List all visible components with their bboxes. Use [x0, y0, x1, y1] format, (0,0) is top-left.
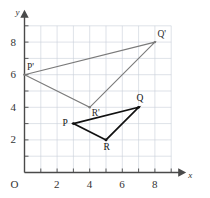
y-tick-label: 6	[11, 69, 17, 80]
coordinate-plane-figure: x y O 24682468 P'Q'R'PQR	[0, 0, 210, 198]
origin-label: O	[11, 179, 19, 190]
y-tick-label: 8	[11, 37, 17, 48]
y-tick-label: 4	[11, 102, 17, 113]
x-tick-label: 8	[152, 179, 158, 190]
vertex-label-q-prime: Q'	[157, 30, 166, 40]
vertex-label-p: P	[62, 119, 67, 129]
vertex-label-q: Q	[137, 94, 144, 104]
x-tick-label: 4	[87, 179, 93, 190]
y-axis-name: y	[16, 8, 20, 17]
x-tick-label: 6	[119, 179, 125, 190]
vertex-label-p-prime: P'	[27, 63, 34, 73]
y-tick-label: 2	[11, 134, 17, 145]
plot-canvas	[0, 0, 210, 198]
vertex-label-r: R	[104, 143, 110, 153]
x-tick-label: 2	[54, 179, 60, 190]
x-axis-name: x	[188, 171, 192, 180]
vertex-label-r-prime: R'	[92, 109, 100, 119]
